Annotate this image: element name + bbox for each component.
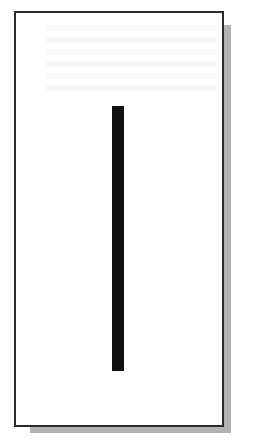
card-frame: vertical-bar: [14, 11, 224, 427]
bar-description: vertical-bar: [112, 106, 113, 107]
show-through-texture: [46, 25, 216, 95]
vertical-bar: vertical-bar: [112, 106, 124, 371]
